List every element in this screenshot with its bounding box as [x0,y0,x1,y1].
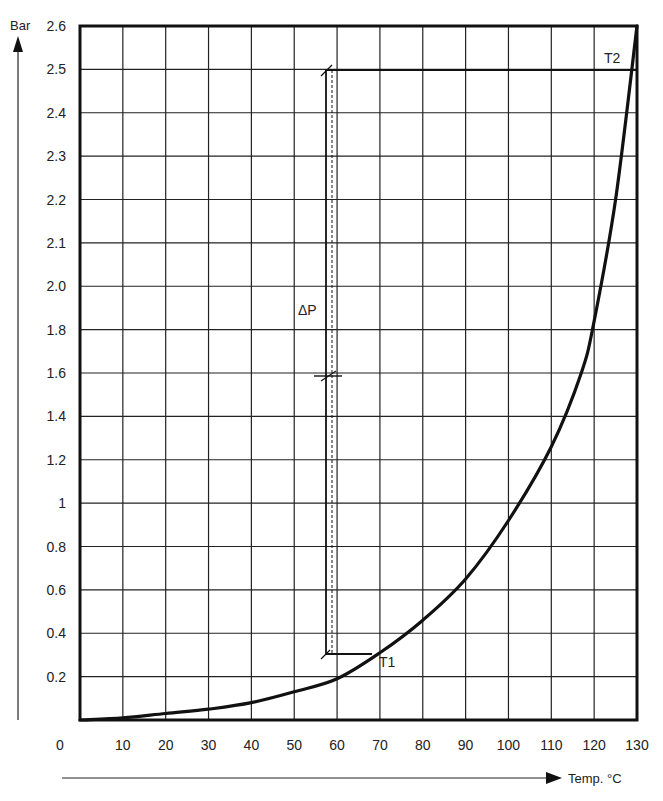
y-tick-label: 2.1 [47,235,67,251]
x-tick-label: 10 [115,737,131,753]
y-tick-label: 1.8 [47,322,67,338]
y-tick-label: 1.2 [47,452,67,468]
y-tick-label: 2.5 [47,61,67,77]
x-tick-label: 110 [540,737,563,753]
x-tick-label: 130 [625,737,649,753]
delta-p-bracket [314,65,637,659]
x-tick-label: 0 [56,737,64,753]
vapour-pressure-chart: 0.20.40.60.811.21.41.61.82.02.12.22.32.4… [0,0,663,801]
y-tick-label: 2.4 [47,105,67,121]
x-tick-label: 40 [244,737,260,753]
x-tick-label: 100 [497,737,521,753]
x-tick-label: 120 [582,737,606,753]
x-tick-label: 30 [201,737,217,753]
delta-p-label: ΔP [298,302,317,318]
y-tick-label: 1 [58,495,66,511]
t1-label: T1 [379,654,396,670]
x-axis-arrowhead-icon [546,772,562,784]
x-axis-label: Temp. °C [568,771,622,786]
y-tick-label: 0.6 [47,582,67,598]
y-tick-label: 0.4 [47,625,67,641]
x-tick-labels: 0102030405060708090100110120130 [56,737,649,753]
x-tick-label: 50 [286,737,302,753]
grid-lines [80,26,637,720]
y-tick-label: 2.0 [47,278,67,294]
y-tick-label: 2.3 [47,148,67,164]
x-tick-label: 20 [158,737,174,753]
t2-label: T2 [604,50,621,66]
y-tick-labels: 0.20.40.60.811.21.41.61.82.02.12.22.32.4… [47,18,67,685]
x-tick-label: 80 [415,737,431,753]
y-tick-label: 1.4 [47,408,67,424]
y-tick-label: 2.2 [47,192,67,208]
y-tick-label: 0.8 [47,539,67,555]
x-tick-label: 90 [458,737,474,753]
y-tick-label: 2.6 [47,18,67,34]
y-tick-label: 1.6 [47,365,67,381]
y-axis-arrowhead-icon [13,36,23,52]
y-axis-label: Bar [10,18,31,33]
x-tick-label: 60 [329,737,345,753]
y-tick-label: 0.2 [47,669,67,685]
x-tick-label: 70 [372,737,388,753]
